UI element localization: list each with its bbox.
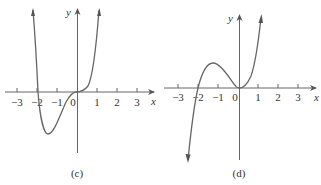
tick-label: −3: [11, 96, 23, 108]
tick-label: 1: [94, 96, 100, 108]
x-axis-label: x: [313, 91, 319, 103]
curve-arrow-icon: [259, 14, 264, 23]
curve-d: [188, 18, 261, 160]
curve-arrow-icon: [31, 8, 35, 16]
x-axis-label: x: [150, 95, 156, 107]
curve-c: [33, 10, 99, 134]
graph-c: −3 −2 −1 0 1 2 3 x y (c): [5, 6, 156, 180]
tick-label: −1: [212, 91, 224, 103]
tick-label: 2: [114, 96, 120, 108]
origin-label: 0: [232, 91, 238, 103]
tick-label: −2: [192, 91, 204, 103]
tick-label: 1: [255, 91, 261, 103]
tick-label: −2: [31, 96, 43, 108]
tick-label: 2: [275, 91, 281, 103]
tick-label: −1: [51, 96, 63, 108]
y-axis-label: y: [65, 6, 71, 18]
panel-label: (c): [71, 167, 84, 180]
origin-label: 0: [70, 96, 76, 108]
curve-arrow-icon: [97, 8, 101, 16]
y-axis-label: y: [227, 12, 233, 24]
tick-label: 3: [134, 96, 140, 108]
figure: −3 −2 −1 0 1 2 3 x y (c) −3 −2 −1: [0, 0, 321, 185]
tick-label: −3: [172, 91, 184, 103]
graph-d: −3 −2 −1 0 1 2 3 x y (d): [164, 12, 319, 180]
tick-label: 3: [295, 91, 301, 103]
panel-label: (d): [233, 167, 246, 180]
curve-arrow-icon: [186, 154, 191, 163]
